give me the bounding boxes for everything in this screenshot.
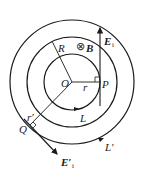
label-E: E bbox=[103, 35, 111, 47]
loop-L-direction-arrow bbox=[74, 107, 80, 111]
induced-field-diagram: R ⊗ B E i O r P L r′ Q L′ E′ i bbox=[0, 0, 145, 182]
label-B: B bbox=[85, 42, 93, 54]
label-P: P bbox=[101, 78, 109, 90]
label-R: R bbox=[57, 42, 65, 54]
label-O: O bbox=[61, 77, 69, 89]
label-L: L bbox=[79, 112, 86, 124]
label-r-prime: r′ bbox=[27, 111, 34, 123]
label-E-prime: E′ bbox=[60, 156, 71, 168]
label-E-sub: i bbox=[112, 41, 114, 49]
label-B-symbol: ⊗ bbox=[76, 40, 85, 52]
label-L-prime: L′ bbox=[104, 141, 114, 153]
label-r: r bbox=[83, 81, 88, 93]
label-Q: Q bbox=[19, 123, 27, 135]
loop-L-prime-direction-arrow bbox=[98, 138, 104, 142]
field-E-prime-arrow bbox=[24, 119, 57, 154]
label-E-prime-sub: i bbox=[72, 162, 74, 170]
